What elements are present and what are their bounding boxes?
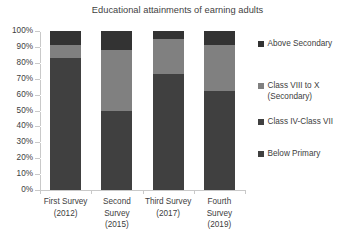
y-axis-label-90pct: 90% (0, 42, 33, 51)
x-axis-label-line: (2017) (140, 208, 196, 220)
y-axis-label-80pct: 80% (0, 58, 33, 67)
x-axis-label-line: (2019) (191, 219, 247, 231)
legend-item-label: Above Secondary (268, 38, 333, 49)
legend-swatch-icon (258, 151, 264, 157)
bar-2 (101, 31, 132, 190)
y-axis-label-20pct: 20% (0, 153, 33, 162)
legend-item-2[interactable]: Class VIII to X(Secondary) (258, 80, 353, 102)
x-axis-label-4: FourthSurvey(2019) (191, 196, 247, 231)
x-axis-tick (40, 190, 41, 194)
legend-swatch-icon (258, 119, 264, 125)
bar-segment (50, 58, 81, 190)
legend-label-line: Above Secondary (268, 38, 333, 49)
x-axis-tick (194, 190, 195, 194)
bar-segment (50, 31, 81, 45)
bar-segment (204, 31, 235, 45)
bar-segment (101, 50, 132, 110)
chart-title: Educational attainments of earning adult… (0, 5, 355, 15)
legend-item-label: Below Primary (268, 148, 321, 159)
y-axis-label-30pct: 30% (0, 137, 33, 146)
x-axis-label-line: First Survey (38, 196, 94, 208)
x-axis-label-1: First Survey(2012) (38, 196, 94, 219)
x-axis-label-2: SecondSurvey(2015) (89, 196, 145, 231)
legend-label-line: Below Primary (268, 148, 321, 159)
bar-segment (204, 45, 235, 91)
plot-area (40, 31, 245, 190)
bar-segment (101, 31, 132, 50)
bar-4 (204, 31, 235, 190)
x-axis-label-line: Survey (191, 208, 247, 220)
legend-item-3[interactable]: Class IV-Class VII (258, 116, 353, 127)
x-axis-label-line: Fourth (191, 196, 247, 208)
x-axis-tick (245, 190, 246, 194)
chart-container: Educational attainments of earning adult… (0, 0, 355, 248)
legend-item-label: Class IV-Class VII (268, 116, 334, 127)
x-axis-label-line: Second (89, 196, 145, 208)
bar-1 (50, 31, 81, 190)
y-axis-label-40pct: 40% (0, 121, 33, 130)
y-axis-label-100pct: 100% (0, 26, 33, 35)
bar-segment (153, 74, 184, 190)
legend-item-1[interactable]: Above Secondary (258, 38, 353, 49)
x-axis-label-line: Third Survey (140, 196, 196, 208)
x-axis-tick (91, 190, 92, 194)
x-axis-label-line: Survey (89, 208, 145, 220)
legend-label-line: (Secondary) (268, 91, 320, 102)
legend-label-line: Class VIII to X (268, 80, 320, 91)
x-axis-tick (143, 190, 144, 194)
bar-segment (153, 31, 184, 39)
y-axis-label-70pct: 70% (0, 74, 33, 83)
bar-segment (204, 91, 235, 190)
legend-swatch-icon (258, 83, 264, 89)
legend-item-4[interactable]: Below Primary (258, 148, 353, 159)
legend-swatch-icon (258, 41, 264, 47)
legend-label-line: Class IV-Class VII (268, 116, 334, 127)
y-axis-label-0pct: 0% (0, 185, 33, 194)
y-axis-label-50pct: 50% (0, 106, 33, 115)
y-axis-label-60pct: 60% (0, 90, 33, 99)
legend-item-label: Class VIII to X(Secondary) (268, 80, 320, 102)
bar-segment (50, 45, 81, 58)
x-axis-label-line: (2012) (38, 208, 94, 220)
bar-3 (153, 31, 184, 190)
bar-segment (101, 111, 132, 191)
y-axis-label-10pct: 10% (0, 169, 33, 178)
x-axis-label-3: Third Survey(2017) (140, 196, 196, 219)
x-axis-label-line: (2015) (89, 219, 145, 231)
bar-segment (153, 39, 184, 74)
